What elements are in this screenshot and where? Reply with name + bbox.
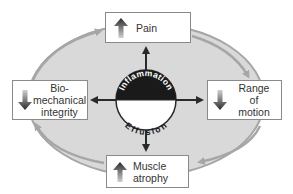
decrease-arrow-icon [213, 90, 227, 110]
center-circle: Inflammation Effusion [116, 68, 176, 137]
increase-arrow-icon [114, 18, 128, 38]
node-range-of-motion-label: Range of motion [227, 82, 281, 118]
node-pain: Pain [105, 12, 191, 43]
node-range-of-motion: Range of motion [207, 80, 282, 120]
node-muscle-atrophy-label: Muscle atrophy [127, 160, 188, 184]
node-biomechanical-integrity: Bio- mechanical integrity [12, 80, 88, 120]
increase-arrow-icon [113, 162, 127, 182]
node-pain-label: Pain [128, 22, 190, 34]
node-biomechanical-label: Bio- mechanical integrity [32, 82, 87, 118]
node-muscle-atrophy: Muscle atrophy [106, 155, 189, 188]
decrease-arrow-icon [18, 90, 32, 110]
